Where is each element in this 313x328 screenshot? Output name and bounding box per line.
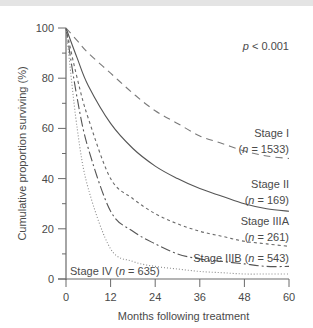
x-tick-label: 24 bbox=[149, 291, 161, 303]
label-stage-2-n: (n = 169) bbox=[245, 194, 289, 206]
x-axis-title: Months following treatment bbox=[118, 310, 249, 322]
label-stage-2: Stage II bbox=[251, 178, 289, 190]
label-stage-3b: Stage IIIB (n = 543) bbox=[193, 252, 289, 264]
label-stage-1-n: (n = 1533) bbox=[239, 143, 289, 155]
label-stage-1: Stage I bbox=[254, 127, 289, 139]
y-tick-label: 20 bbox=[42, 223, 54, 235]
y-tick-label: 80 bbox=[42, 72, 54, 84]
label-stage-4: Stage IV (n = 635) bbox=[70, 265, 160, 277]
y-tick-label: 40 bbox=[42, 173, 54, 185]
y-tick-label: 0 bbox=[48, 273, 54, 285]
x-tick-label: 36 bbox=[194, 291, 206, 303]
y-tick-label: 100 bbox=[36, 22, 54, 34]
y-axis-title: Cumulative proportion surviving (%) bbox=[16, 66, 28, 240]
x-tick-label: 0 bbox=[63, 291, 69, 303]
curve-labels: p < 0.001 Stage I (n = 1533) Stage II (n… bbox=[70, 40, 290, 277]
label-stage-3a-n: (n = 261) bbox=[245, 231, 289, 243]
x-tick-label: 48 bbox=[238, 291, 250, 303]
label-stage-3a: Stage IIIA bbox=[241, 215, 290, 227]
survival-chart: 02040608010001224364860Months following … bbox=[0, 0, 313, 328]
p-value-annotation: p < 0.001 bbox=[242, 40, 289, 52]
x-tick-label: 60 bbox=[283, 291, 295, 303]
x-tick-label: 12 bbox=[104, 291, 116, 303]
axes: 02040608010001224364860Months following … bbox=[16, 22, 295, 322]
y-tick-label: 60 bbox=[42, 122, 54, 134]
